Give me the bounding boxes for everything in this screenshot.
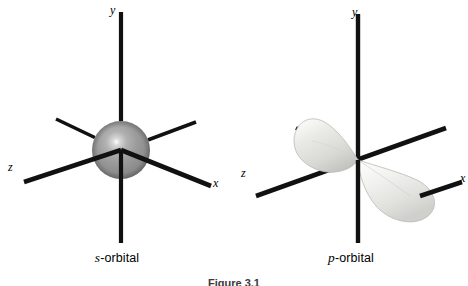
p-orbital-caption-symbol: p bbox=[328, 250, 335, 265]
orbital-figure: y z x s-orbital bbox=[0, 0, 468, 286]
s-orbital-diagram: y z x bbox=[0, 0, 234, 250]
p-orbital-caption: p-orbital bbox=[234, 250, 468, 266]
s-orbital-panel: y z x s-orbital bbox=[0, 0, 234, 286]
s-axis-label-x: x bbox=[213, 177, 218, 189]
p-axis-label-x: x bbox=[460, 172, 465, 184]
p-orbital-diagram: y z x bbox=[234, 0, 468, 250]
p-orbital-panel: y z x p-orbital bbox=[234, 0, 468, 286]
s-axis-label-z: z bbox=[8, 161, 13, 173]
p-axis-label-z: z bbox=[241, 167, 246, 179]
s-orbital-caption: s-orbital bbox=[0, 250, 234, 266]
figure-caption: Figure 3.1 bbox=[0, 277, 468, 286]
p-orbital-caption-text: -orbital bbox=[335, 251, 374, 265]
p-orbital-lobe-left bbox=[294, 119, 358, 172]
p-axis-label-y: y bbox=[352, 6, 357, 18]
p-orbital-lobe-right bbox=[358, 160, 435, 222]
s-axis-label-y: y bbox=[110, 4, 115, 16]
s-orbital-caption-text: -orbital bbox=[100, 251, 139, 265]
